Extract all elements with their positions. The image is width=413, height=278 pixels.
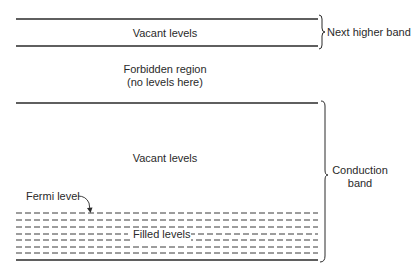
filled-levels-label: Filled levels	[132, 228, 191, 241]
band-diagram-graphics	[0, 0, 413, 278]
no-levels-here-label: (no levels here)	[127, 76, 203, 89]
conduction-label-line2: band	[348, 177, 372, 190]
upper-band-brace	[319, 15, 325, 49]
conduction-label-line1: Conduction	[332, 164, 388, 177]
next-higher-band-label: Next higher band	[327, 26, 411, 39]
conduction-band-brace	[320, 101, 328, 262]
forbidden-region-label: Forbidden region	[123, 63, 206, 76]
conduction-vacant-label: Vacant levels	[133, 152, 198, 165]
fermi-level-label: Fermi level	[26, 190, 80, 203]
fermi-level-arrowhead	[87, 208, 93, 214]
upper-band-vacant-label: Vacant levels	[133, 27, 198, 40]
